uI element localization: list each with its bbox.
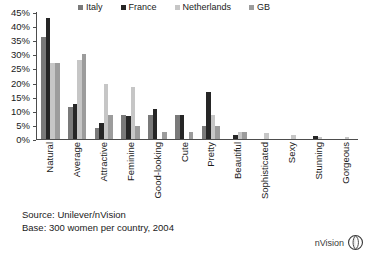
y-axis-tick-label: 40%: [11, 22, 30, 32]
y-axis-tick: [33, 84, 36, 85]
y-axis-tick: [33, 126, 36, 127]
y-axis-tick-label: 30%: [11, 51, 30, 61]
x-axis-label-cell: Natural: [37, 142, 64, 214]
x-axis-tick-label: Stunning: [314, 142, 324, 180]
bar[interactable]: [318, 137, 323, 139]
y-axis-labels: 0%5%10%15%20%25%30%35%40%45%: [0, 12, 34, 140]
legend-item-gb[interactable]: GB: [249, 2, 270, 12]
bar-group: [305, 12, 332, 139]
bar[interactable]: [242, 132, 247, 139]
legend-label: Netherlands: [183, 2, 232, 12]
legend-swatch-icon: [175, 5, 180, 10]
legend-label: GB: [257, 2, 270, 12]
x-axis-label-cell: Sexy: [278, 142, 305, 214]
legend-label: France: [129, 2, 157, 12]
y-axis-tick-label: 10%: [11, 107, 30, 117]
y-axis-tick: [33, 69, 36, 70]
x-axis-tick-label: Sexy: [287, 142, 297, 163]
x-axis-tick-label: Natural: [46, 142, 56, 173]
bar-groups: [37, 12, 358, 139]
bar[interactable]: [189, 132, 194, 139]
bar-group: [198, 12, 225, 139]
y-axis-tick: [33, 140, 36, 141]
x-axis-label-cell: Gorgeous: [332, 142, 359, 214]
x-axis-tick-label: Good-looking: [153, 142, 163, 199]
x-axis-label-cell: Beautiful: [225, 142, 252, 214]
x-axis-label-cell: Feminine: [117, 142, 144, 214]
y-axis-tick: [33, 55, 36, 56]
x-axis-tick-label: Beautiful: [233, 142, 243, 179]
bar[interactable]: [55, 63, 60, 139]
x-axis-line: [36, 139, 358, 140]
x-axis-labels: NaturalAverageAttractiveFeminineGood-loo…: [37, 142, 359, 214]
bar[interactable]: [180, 115, 185, 139]
x-axis-tick-label: Gorgeous: [341, 142, 351, 184]
x-axis-tick-label: Attractive: [99, 142, 109, 182]
x-axis-label-cell: Good-looking: [144, 142, 171, 214]
y-axis-tick: [33, 13, 36, 14]
legend-swatch-icon: [121, 5, 126, 10]
bar-group: [331, 12, 358, 139]
y-axis-tick: [33, 27, 36, 28]
bar[interactable]: [108, 115, 113, 139]
x-axis-label-cell: Cute: [171, 142, 198, 214]
bar[interactable]: [162, 132, 167, 139]
x-axis-label-cell: Pretty: [198, 142, 225, 214]
x-axis-label-cell: Attractive: [91, 142, 118, 214]
bar[interactable]: [291, 135, 296, 139]
bar-group: [91, 12, 118, 139]
brand-mark: nVision: [315, 234, 364, 251]
bar-group: [37, 12, 64, 139]
x-axis-label-cell: Stunning: [305, 142, 332, 214]
bar-group: [224, 12, 251, 139]
y-axis-tick-label: 25%: [11, 65, 30, 75]
bar-group: [278, 12, 305, 139]
bar[interactable]: [264, 133, 269, 139]
legend-item-italy[interactable]: Italy: [78, 2, 103, 12]
bar-group: [251, 12, 278, 139]
y-axis-tick: [33, 41, 36, 42]
y-axis-tick: [33, 112, 36, 113]
y-axis-tick-label: 20%: [11, 79, 30, 89]
x-axis-tick-label: Pretty: [207, 142, 217, 167]
y-axis-tick-label: 0%: [16, 135, 30, 145]
bar-chart: ItalyFranceNetherlandsGB 0%5%10%15%20%25…: [0, 0, 370, 255]
bar-group: [64, 12, 91, 139]
y-axis-tick-label: 35%: [11, 36, 30, 46]
x-axis-tick-label: Average: [72, 142, 82, 177]
x-axis-tick-label: Feminine: [126, 142, 136, 181]
chart-footer: Source: Unilever/nVision Base: 300 women…: [22, 208, 174, 234]
legend-item-france[interactable]: France: [121, 2, 157, 12]
bar[interactable]: [153, 109, 158, 139]
chart-legend: ItalyFranceNetherlandsGB: [78, 2, 270, 12]
bar-group: [171, 12, 198, 139]
legend-swatch-icon: [249, 5, 254, 10]
y-axis-tick-label: 45%: [11, 8, 30, 18]
y-axis-tick: [33, 98, 36, 99]
legend-label: Italy: [86, 2, 103, 12]
bar[interactable]: [135, 126, 140, 139]
brand-name: nVision: [315, 238, 344, 248]
bar-group: [117, 12, 144, 139]
footer-source: Source: Unilever/nVision: [22, 208, 174, 221]
y-axis-tick-label: 5%: [16, 121, 30, 131]
footer-base: Base: 300 women per country, 2004: [22, 221, 174, 234]
legend-item-netherlands[interactable]: Netherlands: [175, 2, 232, 12]
x-axis-label-cell: Sophisticated: [252, 142, 279, 214]
bar[interactable]: [345, 137, 350, 139]
bar[interactable]: [215, 126, 220, 139]
bar-group: [144, 12, 171, 139]
x-axis-tick-label: Cute: [180, 142, 190, 162]
legend-swatch-icon: [78, 5, 83, 10]
x-axis-label-cell: Average: [64, 142, 91, 214]
x-axis-tick-label: Sophisticated: [260, 142, 270, 199]
nvision-leaf-circle-logo: [347, 234, 364, 251]
bar[interactable]: [82, 54, 87, 139]
y-axis-tick-label: 15%: [11, 93, 30, 103]
plot-area: [36, 12, 358, 140]
